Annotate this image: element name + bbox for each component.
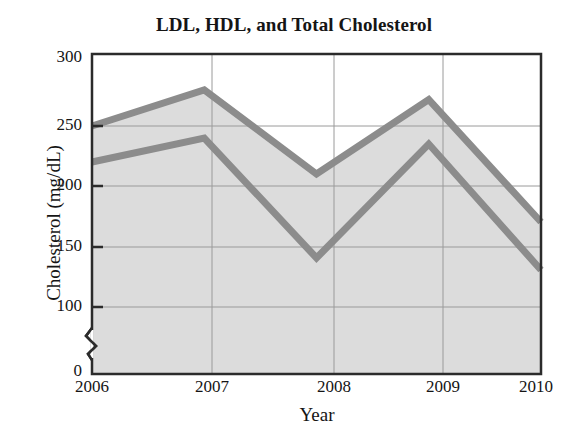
cholesterol-area-chart: LDL, HDL, and Total Cholesterol Choleste… [0,0,588,440]
plot-area [0,0,588,440]
area-total-cholesterol [92,90,541,374]
